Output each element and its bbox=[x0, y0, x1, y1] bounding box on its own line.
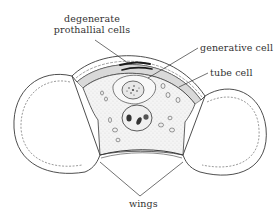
label-generative-cell: generative cell bbox=[200, 42, 273, 53]
label-tube-cell: tube cell bbox=[210, 67, 253, 78]
pollen-grain-diagram bbox=[0, 0, 279, 221]
label-degenerate-line1: degenerate bbox=[52, 13, 132, 24]
bottom-arc-inner bbox=[101, 153, 182, 158]
label-degenerate-line2: prothallial cells bbox=[52, 24, 132, 35]
leader-wings-left bbox=[100, 162, 140, 196]
leader-wings-right bbox=[140, 162, 183, 196]
label-wings: wings bbox=[129, 198, 158, 209]
label-degenerate-prothallial-cells: degenerate prothallial cells bbox=[52, 13, 132, 35]
